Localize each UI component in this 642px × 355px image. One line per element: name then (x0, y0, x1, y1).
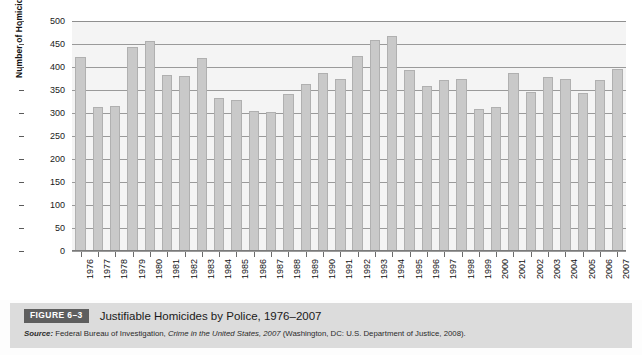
bar-1982 (179, 76, 189, 251)
bar-1993 (370, 40, 380, 251)
bar-1998 (456, 79, 466, 251)
figure-source-line: Source: Federal Bureau of Investigation,… (24, 329, 466, 338)
x-axis-tick-label-2001: 2001 (517, 259, 527, 279)
x-axis-tick-label-2006: 2006 (604, 259, 614, 279)
bar-1989 (301, 84, 311, 251)
x-axis-tick-mark (133, 252, 134, 257)
x-axis-tick-mark (392, 252, 393, 257)
gridline (72, 251, 626, 252)
plot-area (72, 21, 626, 251)
x-axis-tick-label-1999: 1999 (483, 259, 493, 279)
x-axis-tick-mark (98, 252, 99, 257)
bar-2001 (508, 73, 518, 251)
x-axis-tick-label-1980: 1980 (154, 259, 164, 279)
bar-1990 (318, 73, 328, 251)
x-axis-tick-mark (219, 252, 220, 257)
x-axis-tick-label-1986: 1986 (258, 259, 268, 279)
x-axis-tick-mark (600, 252, 601, 257)
x-axis-tick-mark (202, 252, 203, 257)
x-axis-tick-mark (565, 252, 566, 257)
gridline (72, 21, 626, 22)
x-axis-tick-label-1998: 1998 (466, 259, 476, 279)
bar-1985 (231, 100, 241, 251)
x-axis-tick-mark (236, 252, 237, 257)
y-axis-tick-label: 300 (25, 108, 65, 118)
x-axis-tick-mark (115, 252, 116, 257)
x-axis-tick-label-1983: 1983 (206, 259, 216, 279)
x-axis-tick-mark (410, 252, 411, 257)
bar-1991 (335, 79, 345, 251)
x-axis-tick-label-1988: 1988 (292, 259, 302, 279)
bar-1992 (352, 56, 362, 251)
y-axis-tick-label: 400 (25, 62, 65, 72)
y-axis-tick-mark (19, 251, 24, 252)
x-axis-tick-mark (271, 252, 272, 257)
x-axis-tick-mark (462, 252, 463, 257)
x-axis-tick-label-2007: 2007 (621, 259, 631, 279)
x-axis-tick-label-1982: 1982 (189, 259, 199, 279)
x-axis-tick-mark (548, 252, 549, 257)
gridline (72, 44, 626, 45)
x-axis-tick-mark (185, 252, 186, 257)
x-axis-tick-label-1995: 1995 (414, 259, 424, 279)
y-axis-tick-mark (19, 159, 24, 160)
x-axis-tick-label-1984: 1984 (223, 259, 233, 279)
y-axis-tick-mark (19, 113, 24, 114)
source-text-part2: (Washington, DC: U.S. Department of Just… (281, 329, 466, 338)
x-axis-tick-mark (496, 252, 497, 257)
plot-inner (72, 21, 626, 251)
x-axis-tick-mark (254, 252, 255, 257)
bar-2005 (578, 93, 588, 251)
bar-2006 (595, 80, 605, 251)
y-axis-tick-label: 500 (25, 16, 65, 26)
bar-1984 (214, 98, 224, 251)
x-axis-tick-label-1985: 1985 (240, 259, 250, 279)
bar-1986 (249, 111, 259, 251)
y-axis-tick-mark (19, 90, 24, 91)
y-axis-tick-mark (19, 136, 24, 137)
x-axis-tick-label-1990: 1990 (327, 259, 337, 279)
bar-1981 (162, 75, 172, 251)
figure-container: Number of Homicides 05010015020025030035… (0, 0, 642, 355)
x-axis-tick-label-2004: 2004 (569, 259, 579, 279)
source-publication-title: Crime in the United States, 2007 (168, 329, 281, 338)
y-axis-tick-mark (19, 44, 24, 45)
x-axis-tick-mark (513, 252, 514, 257)
x-axis-tick-label-2005: 2005 (587, 259, 597, 279)
caption-row: FIGURE 6–3 Justifiable Homicides by Poli… (24, 309, 321, 323)
bar-1994 (387, 36, 397, 251)
y-axis-tick-label: 150 (25, 177, 65, 187)
bar-1980 (145, 41, 155, 251)
bar-1997 (439, 80, 449, 251)
x-axis-tick-mark (479, 252, 480, 257)
bar-1976 (75, 57, 85, 251)
x-axis-tick-label-1979: 1979 (137, 259, 147, 279)
y-axis-tick-label: 450 (25, 39, 65, 49)
x-axis-tick-mark (444, 252, 445, 257)
x-axis-tick-mark (583, 252, 584, 257)
x-axis-tick-mark (375, 252, 376, 257)
bar-2007 (612, 69, 622, 251)
bar-1999 (474, 109, 484, 251)
x-axis-tick-label-1989: 1989 (310, 259, 320, 279)
source-label: Source: (24, 329, 53, 338)
bar-2000 (491, 107, 501, 251)
y-axis-tick-mark (19, 228, 24, 229)
x-axis-tick-label-1981: 1981 (171, 259, 181, 279)
x-axis-tick-mark (306, 252, 307, 257)
bar-2004 (560, 79, 570, 252)
bar-1977 (93, 107, 103, 251)
x-axis-tick-label-1987: 1987 (275, 259, 285, 279)
x-axis-tick-label-1976: 1976 (85, 259, 95, 279)
y-axis-tick-label: 250 (25, 131, 65, 141)
figure-caption-title: Justifiable Homicides by Police, 1976–20… (100, 310, 322, 322)
y-axis-tick-mark (19, 205, 24, 206)
bar-1996 (422, 86, 432, 251)
x-axis-tick-label-1991: 1991 (344, 259, 354, 279)
x-axis-tick-mark (323, 252, 324, 257)
x-axis-tick-label-1994: 1994 (396, 259, 406, 279)
x-axis-tick-label-1997: 1997 (448, 259, 458, 279)
gridline (72, 67, 626, 68)
x-axis-tick-label-2002: 2002 (535, 259, 545, 279)
x-axis-tick-mark (617, 252, 618, 257)
